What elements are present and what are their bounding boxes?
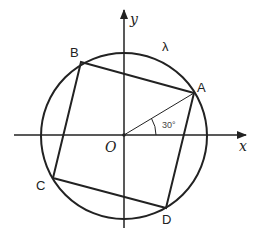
origin-label: O bbox=[105, 139, 117, 155]
diagram-canvas: y x O λ A B C D 30° bbox=[0, 0, 263, 238]
radius-oa bbox=[124, 93, 194, 135]
circle-label: λ bbox=[162, 39, 169, 54]
angle-label: 30° bbox=[162, 120, 176, 130]
origin-point bbox=[122, 133, 126, 137]
point-d-label: D bbox=[162, 212, 171, 227]
point-a-label: A bbox=[197, 80, 206, 95]
x-axis-label: x bbox=[239, 138, 247, 154]
y-axis-label: y bbox=[129, 11, 139, 27]
point-c-label: C bbox=[36, 178, 45, 193]
angle-arc bbox=[152, 119, 157, 136]
point-b-label: B bbox=[70, 45, 79, 60]
